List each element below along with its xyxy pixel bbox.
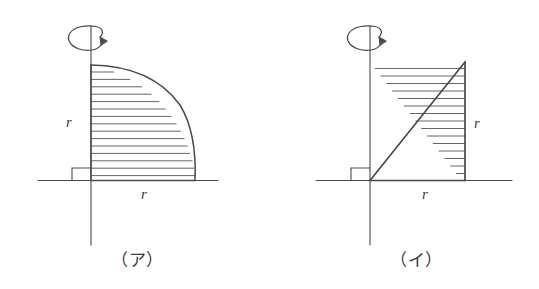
figure-a-right-angle-marker: [72, 168, 91, 181]
figure-a-hatching: [91, 72, 195, 176]
figure-b-caption: （イ）: [390, 246, 443, 271]
figure-a-region-outline: [91, 65, 195, 181]
figure-a-horizontal-radius-label: r: [141, 186, 147, 203]
figure-b-rotation-arrow-icon: [347, 26, 386, 51]
figure-a-vertical-radius-label: r: [66, 114, 72, 131]
figure-a-caption: （ア）: [111, 246, 164, 271]
figure-a-rotation-arrow-icon: [68, 26, 107, 51]
figure-b-right-angle-marker: [351, 168, 370, 181]
figure-sheet: r r （ア） r r （イ）: [0, 0, 539, 289]
figure-b-vertical-leg-label: r: [474, 115, 480, 132]
figure-b-horizontal-leg-label: r: [422, 186, 428, 203]
figure-a-drawing: [0, 0, 539, 289]
figure-a-arc: [91, 65, 195, 181]
